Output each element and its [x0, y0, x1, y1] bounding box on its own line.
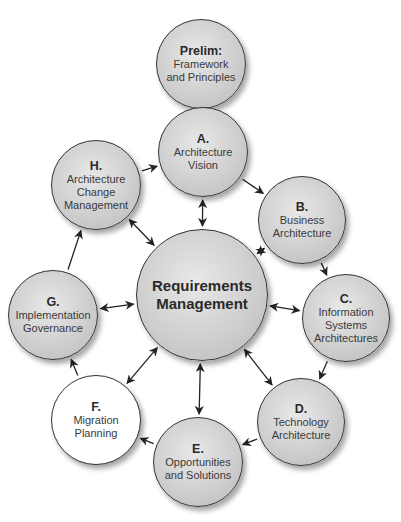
arrow-req-e: [199, 364, 200, 414]
node-letter: A.: [197, 132, 210, 146]
node-letter: F.: [91, 400, 101, 414]
node-c: C.Information Systems Architectures: [302, 274, 390, 362]
arrow-f-g: [71, 359, 78, 375]
node-letter: Prelim:: [180, 44, 222, 58]
node-label: Opportunities and Solutions: [162, 456, 234, 482]
node-f: F.Migration Planning: [51, 375, 141, 465]
node-label: Requirements Management: [147, 277, 257, 313]
arrow-req-d: [244, 349, 272, 385]
node-b: B.Business Architecture: [258, 176, 346, 264]
node-d: D.Technology Architecture: [257, 378, 345, 466]
node-prelim: Prelim:Framework and Principles: [156, 19, 246, 109]
node-g: G.Implementation Governance: [8, 270, 98, 360]
arrow-b-c: [321, 263, 326, 275]
node-e: E.Opportunities and Solutions: [153, 417, 243, 507]
arrow-d-e: [243, 439, 257, 445]
node-label: Implementation Governance: [12, 309, 94, 335]
node-label: Architecture Change Management: [60, 173, 132, 212]
arrow-req-b: [257, 248, 264, 253]
node-label: Technology Architecture: [265, 416, 337, 442]
node-letter: D.: [295, 402, 308, 416]
arrow-g-h: [68, 231, 81, 270]
arrow-e-f: [140, 438, 153, 443]
node-label: Architecture Vision: [167, 146, 239, 172]
arrow-c-d: [320, 361, 328, 379]
node-letter: C.: [340, 292, 353, 306]
node-label: Information Systems Architectures: [305, 306, 387, 345]
arrow-req-f: [127, 348, 157, 384]
arrow-req-g: [101, 304, 134, 308]
node-label: Framework and Principles: [165, 58, 237, 84]
node-label: Migration Planning: [60, 414, 132, 440]
node-letter: B.: [296, 200, 309, 214]
node-letter: H.: [90, 159, 103, 173]
node-req: Requirements Management: [136, 229, 268, 361]
node-h: H.Architecture Change Management: [51, 140, 141, 230]
arrow-req-c: [270, 306, 299, 311]
node-letter: E.: [192, 442, 204, 456]
node-a: A.Architecture Vision: [158, 107, 248, 197]
arrow-a-b: [243, 179, 264, 193]
node-letter: G.: [46, 295, 59, 309]
arrow-req-h: [129, 220, 154, 246]
arrow-h-a: [142, 166, 157, 171]
node-label: Business Architecture: [266, 214, 338, 240]
